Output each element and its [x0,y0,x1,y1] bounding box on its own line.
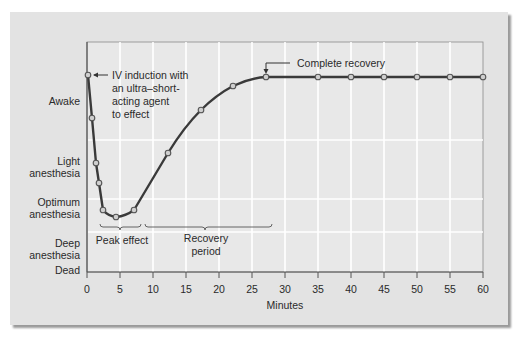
y-label-optimum: Optimum [37,196,80,208]
x-tick-label: 35 [312,283,324,295]
x-tick-label: 25 [246,283,258,295]
x-tick-label: 50 [411,283,423,295]
svg-text:Peak effect: Peak effect [96,234,148,246]
svg-text:to effect: to effect [112,108,149,120]
svg-text:period: period [191,245,220,257]
x-tick-label: 30 [279,283,291,295]
x-tick-label: 15 [180,283,192,295]
x-tick-label: 55 [444,283,456,295]
y-label-deep: Deep [55,237,80,249]
x-tick-label: 10 [147,283,159,295]
x-tick-label: 20 [213,283,225,295]
y-label-light: anesthesia [29,167,80,179]
x-ticks [87,272,483,278]
x-tick-label: 5 [117,283,123,295]
y-level-labels: Awake Light anesthesia Optimum anesthesi… [29,95,80,276]
x-tick-label: 0 [84,283,90,295]
x-axis-title: Minutes [267,299,304,311]
x-tick-label: 40 [345,283,357,295]
y-label-optimum: anesthesia [29,208,80,220]
y-label-deep: anesthesia [29,249,80,261]
chart: 0 5 10 15 20 25 30 35 40 45 50 55 60 Min… [0,0,525,339]
x-tick-label: 45 [378,283,390,295]
y-label-dead: Dead [55,264,80,276]
svg-text:Complete recovery: Complete recovery [297,57,386,69]
x-tick-label: 60 [477,283,489,295]
svg-text:IV induction with: IV induction with [112,69,189,81]
y-label-light: Light [57,155,80,167]
svg-text:Recovery: Recovery [184,232,229,244]
y-label-awake: Awake [49,95,80,107]
x-tick-labels: 0 5 10 15 20 25 30 35 40 45 50 55 60 [84,283,489,295]
svg-text:acting agent: acting agent [112,95,169,107]
svg-text:an ultra–short-: an ultra–short- [112,82,180,94]
